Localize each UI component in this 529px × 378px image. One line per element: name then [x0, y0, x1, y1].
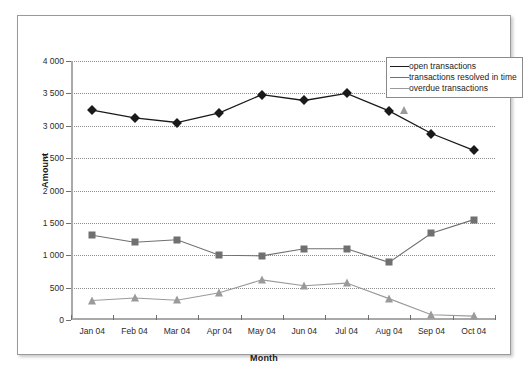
- triangle-marker-icon: [131, 294, 139, 302]
- series-line: [92, 220, 474, 263]
- x-axis-tick-label: Oct 04: [461, 326, 486, 336]
- triangle-marker-icon: [400, 89, 408, 114]
- square-marker-icon: [174, 236, 181, 243]
- y-axis-tick-label: 4 000: [43, 56, 64, 66]
- legend-marker: [400, 89, 408, 107]
- triangle-marker-icon: [385, 294, 393, 302]
- legend-line: [390, 77, 409, 78]
- square-marker-icon: [216, 252, 223, 259]
- triangle-marker-icon: [427, 310, 435, 318]
- x-axis-tick-label: May 04: [248, 326, 276, 336]
- legend-key: [390, 61, 409, 72]
- y-axis-tick-label: 2 000: [43, 186, 64, 196]
- triangle-marker-icon: [258, 275, 266, 283]
- series-line: [92, 280, 474, 316]
- square-marker-icon: [89, 232, 96, 239]
- legend-key: [390, 83, 409, 94]
- legend-item[interactable]: transactions resolved in time: [390, 72, 517, 83]
- triangle-marker-icon: [300, 281, 308, 289]
- x-axis-title: Month: [18, 353, 510, 363]
- legend-key: [390, 72, 409, 83]
- legend-label: transactions resolved in time: [409, 72, 517, 83]
- y-axis-tick-label: 3 000: [43, 121, 64, 131]
- square-marker-icon: [258, 252, 265, 259]
- y-axis-tick-label: 1 000: [43, 250, 64, 260]
- square-marker-icon: [428, 230, 435, 237]
- x-axis-tick-label: Jul 04: [335, 326, 358, 336]
- x-axis-tick-label: Feb 04: [121, 326, 147, 336]
- x-axis-tick-label: Apr 04: [207, 326, 232, 336]
- y-axis-tick-label: 0: [59, 315, 64, 325]
- legend-line: [390, 66, 409, 67]
- square-marker-icon: [470, 216, 477, 223]
- plot-area: 05001 0001 5002 0002 5003 0003 5004 000 …: [71, 61, 495, 320]
- series-lines: [71, 61, 495, 320]
- square-marker-icon: [386, 259, 393, 266]
- triangle-marker-icon: [343, 279, 351, 287]
- legend-label: overdue transactions: [409, 83, 488, 94]
- square-marker-icon: [131, 239, 138, 246]
- legend-item[interactable]: overdue transactions: [390, 83, 517, 94]
- y-axis-tick: [66, 320, 71, 321]
- x-axis-tick-label: Mar 04: [164, 326, 190, 336]
- triangle-marker-icon: [215, 288, 223, 296]
- x-axis-tick: [495, 315, 496, 320]
- square-marker-icon: [301, 245, 308, 252]
- y-axis-tick-label: 1 500: [43, 218, 64, 228]
- chart-frame: Amount Month 05001 0001 5002 0002 5003 0…: [17, 15, 511, 355]
- y-axis-tick-label: 2 500: [43, 153, 64, 163]
- chart-legend[interactable]: open transactionstransactions resolved i…: [386, 57, 523, 98]
- triangle-marker-icon: [173, 296, 181, 304]
- y-axis-tick-label: 500: [50, 283, 64, 293]
- y-axis-tick-label: 3 500: [43, 88, 64, 98]
- square-marker-icon: [343, 245, 350, 252]
- triangle-marker-icon: [470, 312, 478, 320]
- x-axis-tick-label: Aug 04: [376, 326, 403, 336]
- triangle-marker-icon: [88, 296, 96, 304]
- x-axis-tick-label: Sep 04: [418, 326, 445, 336]
- legend-label: open transactions: [409, 61, 476, 72]
- series-line: [92, 93, 474, 150]
- x-axis-tick-label: Jan 04: [79, 326, 105, 336]
- x-axis-tick-label: Jun 04: [291, 326, 317, 336]
- legend-item[interactable]: open transactions: [390, 61, 517, 72]
